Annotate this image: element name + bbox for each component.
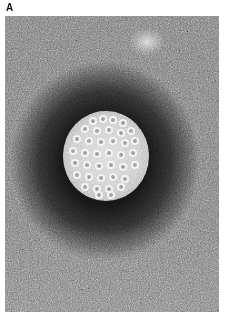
panel-label: A [6,2,13,14]
electron-micrograph [5,16,219,312]
film-grain [5,16,219,312]
